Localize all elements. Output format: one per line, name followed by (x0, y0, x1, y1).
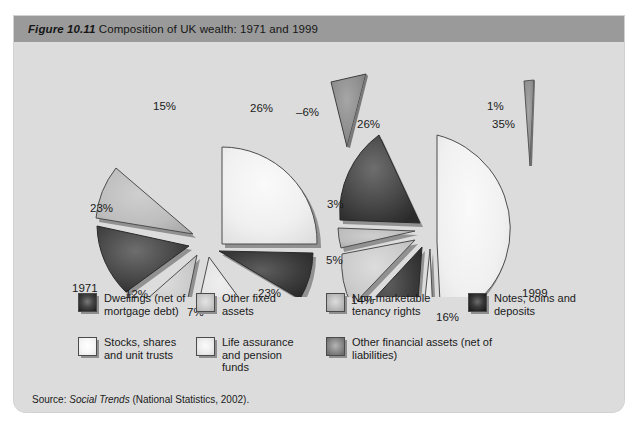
pie-1971-slice-other-financial (331, 74, 366, 147)
legend-label-other-financial: Other financial assets (net of liabiliti… (352, 336, 496, 361)
legend-label-notes: Notes, coins and deposits (494, 292, 588, 317)
source-publication: Social Trends (69, 394, 129, 405)
label-1999-stocks: 35% (492, 118, 515, 130)
legend-label-tenancy: Non-marketable tenancy rights (352, 292, 456, 317)
pie-1971-slice-stocks (222, 147, 317, 244)
figure-title-bar: Figure 10.11 Composition of UK wealth: 1… (14, 16, 624, 42)
legend-swatch-other-financial-icon (326, 337, 345, 356)
label-1971-stocks: 26% (250, 102, 273, 114)
source-prefix: Source: (32, 394, 66, 405)
legend-swatch-life-icon (196, 337, 215, 356)
pie-1999-slice-dwellings (340, 135, 420, 223)
legend-swatch-notes-icon (468, 293, 487, 312)
figure-container: Figure 10.11 Composition of UK wealth: 1… (14, 16, 624, 412)
legend-label-other-fixed: Other fixed assets (222, 292, 296, 317)
pie-1999-slice-stocks (437, 135, 510, 297)
chart-legend: Dwellings (net of mortgage debt) Other f… (14, 292, 624, 378)
legend-item-tenancy[interactable]: Non-marketable tenancy rights (326, 292, 456, 317)
legend-item-other-fixed[interactable]: Other fixed assets (196, 292, 296, 317)
pie-1999 (338, 80, 535, 297)
chart-plot-area: 26% 15% 23% 12% 7% 23% –6% 1971 35% 26% … (14, 42, 624, 412)
figure-source: Source: Social Trends (National Statisti… (32, 394, 249, 405)
label-1999-dwellings: 26% (357, 118, 380, 130)
legend-item-dwellings[interactable]: Dwellings (net of mortgage debt) (78, 292, 188, 317)
pie-charts-svg (14, 42, 624, 297)
figure-title: Figure 10.11 Composition of UK wealth: 1… (28, 23, 318, 35)
label-1999-other-financial: 1% (487, 100, 504, 112)
label-1971-tenancy: 15% (153, 100, 176, 112)
legend-item-stocks[interactable]: Stocks, shares and unit trusts (78, 336, 190, 361)
label-1971-dwellings: 23% (90, 202, 113, 214)
source-detail: (National Statistics, 2002). (132, 394, 249, 405)
figure-title-text: Composition of UK wealth: 1971 and 1999 (99, 23, 318, 35)
legend-item-other-financial[interactable]: Other financial assets (net of liabiliti… (326, 336, 496, 361)
label-1999-tenancy: 3% (327, 198, 344, 210)
legend-item-life[interactable]: Life assurance and pension funds (196, 336, 300, 374)
legend-swatch-stocks-icon (78, 337, 97, 356)
figure-number: Figure 10.11 (28, 23, 95, 35)
legend-label-life: Life assurance and pension funds (222, 336, 300, 374)
legend-swatch-dwellings-icon (78, 293, 97, 312)
legend-label-stocks: Stocks, shares and unit trusts (104, 336, 190, 361)
legend-swatch-tenancy-icon (326, 293, 345, 312)
legend-item-notes[interactable]: Notes, coins and deposits (468, 292, 588, 317)
pie-1971-slice-tenancy (96, 168, 193, 234)
legend-label-dwellings: Dwellings (net of mortgage debt) (104, 292, 188, 317)
label-1999-other-fixed: 5% (326, 254, 343, 266)
label-1971-other-financial: –6% (296, 106, 319, 118)
legend-swatch-other-fixed-icon (196, 293, 215, 312)
